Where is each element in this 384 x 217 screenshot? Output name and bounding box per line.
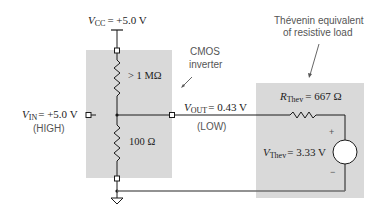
ground-terminal [115, 176, 120, 181]
vin-terminal [86, 113, 91, 118]
thevenin-arrow [310, 44, 319, 75]
vin-label: VIN= +5.0 V [22, 108, 78, 122]
ground-icon [111, 198, 123, 204]
pull-up-label: > 1 MΩ [128, 70, 162, 81]
v-thev-plus: + [329, 127, 334, 137]
v-thev-minus: − [330, 167, 335, 177]
vcc-label: VCC= +5.0 V [88, 14, 147, 28]
vcc-terminal [115, 48, 120, 53]
v-thev-source [333, 140, 357, 164]
cmos-annotation-line1: CMOS [190, 46, 220, 57]
vout-terminal [170, 113, 175, 118]
cmos-annotation-line2: inverter [189, 59, 223, 70]
cmos-inverter-thevenin-diagram: VCC= +5.0 V > 1 MΩ 100 Ω VIN= +5.0 V (HI… [0, 0, 384, 217]
vout-label: VOUT= 0.43 V [184, 101, 247, 115]
thevenin-annotation-line1: Thévenin equivalent [274, 15, 364, 26]
thevenin-arrowhead [308, 73, 312, 78]
vin-state: (HIGH) [33, 123, 65, 134]
thevenin-annotation-line2: of resistive load [283, 27, 352, 38]
vout-state: (LOW) [197, 121, 226, 132]
pull-down-label: 100 Ω [129, 136, 155, 147]
